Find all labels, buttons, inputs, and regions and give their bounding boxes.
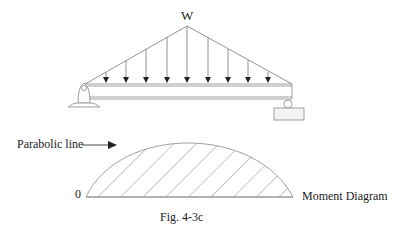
pin-support — [68, 83, 100, 107]
triangular-load — [85, 26, 292, 84]
parabola-pointer-arrow — [82, 141, 117, 149]
figure-caption: Fig. 4-3c — [160, 210, 203, 225]
origin-label: 0 — [75, 187, 81, 202]
arrow-heads — [103, 77, 271, 83]
parabolic-line-label: Parabolic line — [17, 137, 83, 152]
roller-support — [274, 100, 304, 120]
figure-canvas: W Parabolic line 0 Moment Diagram Fig. 4… — [0, 0, 406, 237]
moment-diagram — [86, 143, 293, 197]
load-label: W — [181, 8, 193, 24]
beam — [85, 84, 292, 99]
moment-diagram-label: Moment Diagram — [302, 189, 388, 204]
